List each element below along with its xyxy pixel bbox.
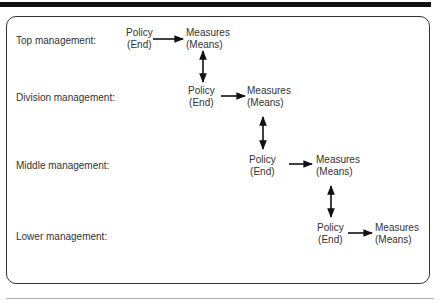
arrows-layer bbox=[0, 0, 441, 304]
